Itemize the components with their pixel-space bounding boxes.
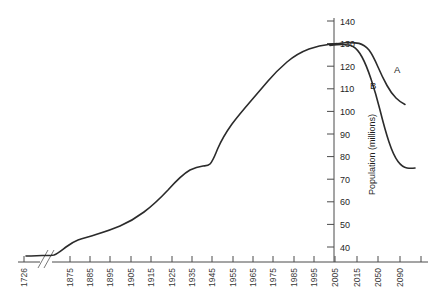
y-tick-label: 100: [340, 107, 355, 117]
x-tick-label: 1995: [309, 268, 319, 287]
curve-historical: [26, 44, 337, 256]
x-tick-label: 1955: [228, 268, 238, 287]
x-tick-label: 1985: [289, 268, 299, 287]
y-tick-label: 90: [340, 130, 350, 140]
x-tick-label: 1895: [105, 268, 115, 287]
x-tick-label: 1885: [85, 268, 95, 287]
x-tick-label: 1925: [167, 268, 177, 287]
y-tick-label: 120: [340, 62, 355, 72]
x-axis-tick-labels: 1726 1875 1885 1895 1905 1915 1925 1935 …: [19, 268, 405, 287]
chart-svg: 1726 1875 1885 1895 1905 1915 1925 1935 …: [0, 0, 432, 294]
x-tick-label: 1726: [19, 268, 29, 287]
x-axis-break-icon: [38, 250, 54, 268]
y-tick-label: 50: [340, 220, 350, 230]
y-axis-tick-labels: 140 130 120 110 100 90 80 70 60 50 40: [340, 17, 355, 253]
x-tick-label: 1905: [126, 268, 136, 287]
x-tick-label: 1875: [65, 268, 75, 287]
y-tick-label: 40: [340, 243, 350, 253]
x-tick-label: 1965: [248, 268, 258, 287]
y-axis-ticks: [327, 21, 334, 247]
y-tick-label: 140: [340, 17, 355, 27]
y-tick-label: 110: [340, 84, 354, 94]
y-tick-label: 80: [340, 152, 350, 162]
x-tick-label: 2050: [373, 268, 383, 287]
y-tick-label: 60: [340, 197, 350, 207]
x-tick-label: 2015: [352, 268, 362, 287]
x-tick-label: 1945: [207, 268, 217, 287]
x-tick-label: 1935: [187, 268, 197, 287]
series-label-b: B: [370, 80, 376, 91]
series-label-a: A: [394, 64, 401, 75]
population-chart: 1726 1875 1885 1895 1905 1915 1925 1935 …: [0, 0, 432, 294]
y-axis-title: Population (millions): [367, 114, 377, 195]
x-tick-label: 2005: [330, 268, 340, 287]
x-axis-ticks: [24, 256, 421, 262]
x-tick-label: 1915: [146, 268, 156, 287]
x-tick-label: 2090: [395, 268, 405, 287]
y-tick-label: 70: [340, 175, 350, 185]
x-tick-label: 1975: [268, 268, 278, 287]
